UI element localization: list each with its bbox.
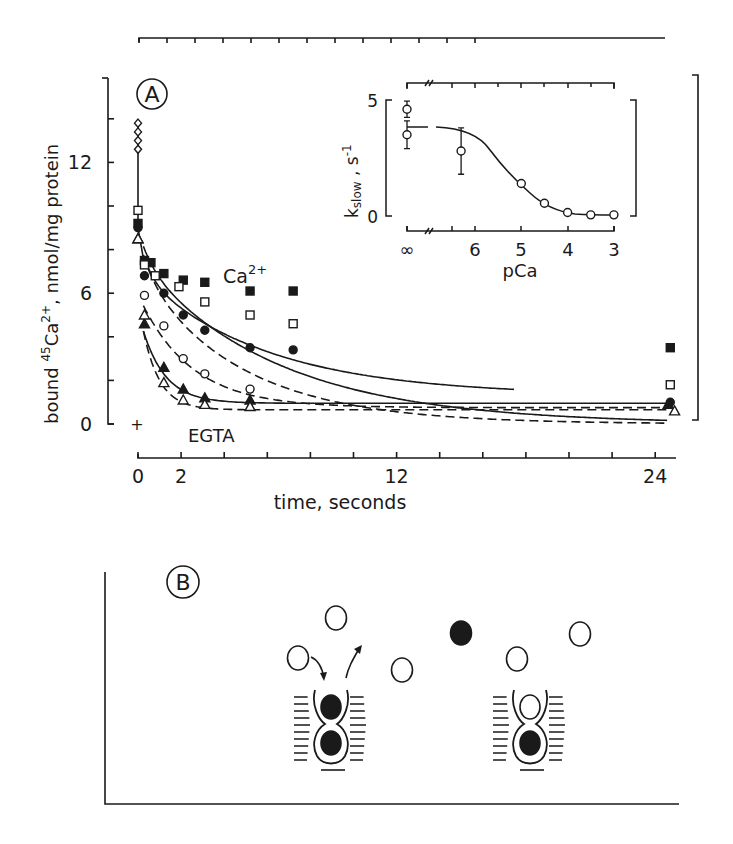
x-tick-labels: 021224 [132, 465, 667, 487]
inset-bottom-axis [407, 226, 614, 231]
svg-text:5: 5 [367, 91, 378, 111]
svg-text:12: 12 [385, 465, 409, 487]
y-axis-label: bound 45Ca2+, nmol/mg protein [39, 144, 62, 424]
svg-text:6: 6 [469, 239, 480, 260]
panel-b-label: B [167, 566, 199, 598]
inset-left-axis [386, 100, 392, 216]
binding-site-diagram [288, 606, 591, 770]
svg-text:2: 2 [175, 465, 187, 487]
inset-y-label: kslow , s-1 [340, 144, 364, 218]
inset-x-label: pCa [502, 260, 537, 281]
main-x-axis [138, 452, 676, 458]
x-axis-label: time, seconds [274, 491, 407, 513]
panel-b-frame [105, 572, 679, 804]
inset-plot: 5 0 ∞6543 pCa kslow , s-1 [340, 80, 636, 281]
top-axis-frame [139, 38, 665, 43]
svg-text:24: 24 [643, 465, 667, 487]
annotation-plus: + [130, 415, 143, 434]
svg-text:0: 0 [132, 465, 144, 487]
annotation-egta: EGTA [188, 425, 235, 446]
main-y-axis [102, 78, 114, 424]
inset-top-axis [407, 83, 614, 89]
svg-text:0: 0 [80, 413, 92, 435]
svg-text:0: 0 [367, 207, 378, 227]
svg-text:6: 6 [80, 282, 92, 304]
annotation-ca: Ca2+ [223, 262, 267, 287]
y-tick-labels: 0612 [68, 151, 92, 435]
figure-canvas: A 0612 021224 time, seconds bound 45Ca2+… [0, 0, 733, 844]
panel-a-label: A [137, 79, 167, 109]
data-markers [133, 119, 680, 415]
svg-text:A: A [144, 82, 159, 107]
inset-right-bracket [630, 100, 636, 216]
svg-text:3: 3 [608, 239, 619, 260]
svg-text:4: 4 [562, 239, 573, 260]
main-right-bracket [692, 75, 698, 420]
fit-curves [138, 123, 667, 423]
svg-text:12: 12 [68, 151, 92, 173]
inset-fit-curve [407, 127, 614, 215]
svg-text:5: 5 [515, 239, 526, 260]
svg-text:∞: ∞ [400, 239, 415, 260]
svg-text:B: B [175, 570, 190, 595]
